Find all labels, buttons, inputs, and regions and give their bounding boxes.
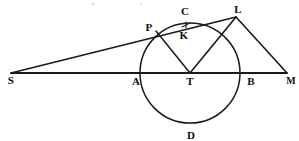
figure-strokes [11,17,287,123]
scan-speck [140,4,142,5]
point-label-a: A [132,76,140,87]
point-label-p: P [146,22,153,33]
point-label-l: L [234,4,242,15]
point-label-b: B [247,76,255,87]
point-label-k: K [180,30,189,41]
point-label-t: T [186,76,194,87]
segment-s-to-l [11,17,236,73]
point-label-s: S [8,75,14,86]
point-label-d: D [187,130,195,141]
scan-speck [92,3,94,5]
point-label-m: M [286,76,296,86]
segment-l-to-m [236,17,287,73]
segment-l-to-t [190,17,236,73]
geometry-figure: S A T B M P C K L D [0,0,299,141]
point-label-c: C [181,6,189,17]
